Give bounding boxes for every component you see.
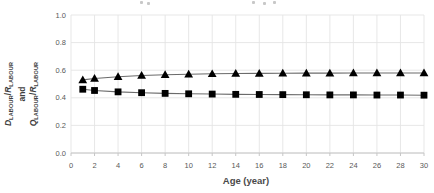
x-tick-label: 28 xyxy=(396,161,404,170)
x-tick-label: 8 xyxy=(163,161,167,170)
chart: 0.00.20.40.60.81.00246810121416182022242… xyxy=(0,0,434,193)
square-marker xyxy=(79,86,86,93)
y-tick-label: 0.8 xyxy=(56,38,66,47)
x-tick-label: 26 xyxy=(373,161,381,170)
square-marker xyxy=(256,91,263,98)
y-axis-label: DLABOUR/RLABOURandQLABOUR/RLABOUR xyxy=(3,33,39,155)
series-triangle xyxy=(78,69,428,84)
square-marker xyxy=(209,91,216,98)
square-marker xyxy=(115,88,122,95)
y-axis-label-line: and xyxy=(17,33,28,155)
square-marker xyxy=(350,92,357,99)
square-marker xyxy=(326,92,333,99)
x-tick-label: 12 xyxy=(208,161,216,170)
x-tick-label: 2 xyxy=(92,161,96,170)
x-tick-label: 18 xyxy=(279,161,287,170)
chart-canvas: 0.00.20.40.60.81.00246810121416182022242… xyxy=(0,0,434,193)
gridlines xyxy=(71,15,424,153)
y-tick-label: 1.0 xyxy=(56,11,66,20)
square-marker xyxy=(232,91,239,98)
y-axis-label-line: QLABOUR/RLABOUR xyxy=(28,33,42,155)
x-tick-label: 22 xyxy=(326,161,334,170)
square-marker xyxy=(185,90,192,97)
x-tick-label: 16 xyxy=(255,161,263,170)
y-axis-label-line: DLABOUR/RLABOUR xyxy=(3,33,17,155)
x-tick-label: 20 xyxy=(302,161,310,170)
square-marker xyxy=(397,92,404,99)
triangle-line xyxy=(83,73,424,80)
x-tick-label: 14 xyxy=(232,161,240,170)
x-tick-label: 6 xyxy=(140,161,144,170)
square-marker xyxy=(279,91,286,98)
x-axis xyxy=(71,153,424,156)
square-marker xyxy=(138,89,145,96)
x-tick-label: 4 xyxy=(116,161,120,170)
x-tick-labels: 024681012141618202224262830 xyxy=(69,161,428,170)
x-tick-label: 0 xyxy=(69,161,73,170)
square-marker xyxy=(421,92,428,99)
y-tick-label: 0.4 xyxy=(56,93,66,102)
y-tick-label: 0.2 xyxy=(56,121,66,130)
x-tick-label: 10 xyxy=(184,161,192,170)
x-tick-label: 24 xyxy=(349,161,357,170)
y-tick-label: 0.0 xyxy=(56,149,66,158)
x-axis-title: Age (year) xyxy=(146,175,346,186)
square-marker xyxy=(303,91,310,98)
y-tick-labels: 0.00.20.40.60.81.0 xyxy=(56,11,66,158)
square-marker xyxy=(91,87,98,94)
square-marker xyxy=(162,90,169,97)
square-line xyxy=(83,89,424,95)
y-tick-label: 0.6 xyxy=(56,66,66,75)
x-tick-label: 30 xyxy=(420,161,428,170)
square-marker xyxy=(374,92,381,99)
triangle-marker xyxy=(349,69,358,77)
series-square xyxy=(79,86,427,99)
